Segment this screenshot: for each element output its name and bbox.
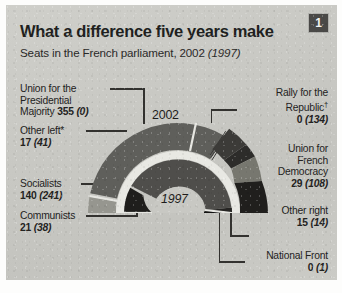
label-socialists-value-1997: (241) — [39, 190, 62, 201]
label-socialists: Socialists 140 (241) — [20, 178, 62, 201]
label-socialists-name: Socialists — [20, 178, 62, 190]
label-rpr-value-2002: 0 — [297, 114, 303, 125]
label-union-presidential-majority: Union for the Presidential Majority 355 … — [20, 83, 88, 118]
label-other-left-value-1997: (41) — [34, 137, 52, 148]
label-national-front-value-2002: 0 — [308, 262, 314, 273]
label-other-left: Other left* 17 (41) — [20, 125, 64, 148]
label-other-right: Other right 15 (14) — [282, 205, 328, 228]
chart-panel: What a difference five years make Seats … — [6, 5, 337, 280]
label-udf-value-2002: 29 — [291, 178, 302, 189]
label-national-front-name: National Front — [266, 250, 328, 262]
label-udf-line2: French — [278, 155, 328, 167]
ring-label-1997: 1997 — [161, 192, 188, 206]
label-udf-value-1997: (108) — [305, 178, 328, 189]
label-rpr-line1: Rally for the — [276, 87, 328, 99]
label-communists-value-1997: (38) — [34, 222, 52, 233]
label-other-right-value-2002: 15 — [297, 217, 308, 228]
label-upm-value-2002: 355 — [57, 106, 74, 117]
label-national-front: National Front 0 (1) — [266, 250, 328, 273]
label-upm-line2: Presidential — [20, 95, 88, 107]
label-upm-value-1997: (0) — [76, 106, 88, 117]
label-upm-line1: Union for the — [20, 83, 88, 95]
ring-label-2002: 2002 — [152, 108, 179, 122]
label-socialists-value-2002: 140 — [20, 190, 37, 201]
label-national-front-value-1997: (1) — [316, 262, 328, 273]
label-udf-line1: Union for — [278, 143, 328, 155]
label-rpr-line2: Republic — [286, 102, 324, 113]
dagger-footnote-marker: † — [324, 100, 328, 109]
figure-root: What a difference five years make Seats … — [0, 0, 342, 293]
label-communists: Communists 21 (38) — [20, 210, 75, 233]
label-other-left-value-2002: 17 — [20, 137, 31, 148]
label-other-left-name: Other left* — [20, 125, 64, 137]
label-communists-name: Communists — [20, 210, 75, 222]
label-rally-republic: Rally for the Republic† 0 (134) — [276, 87, 328, 125]
label-communists-value-2002: 21 — [20, 222, 31, 233]
label-other-right-name: Other right — [282, 205, 328, 217]
label-other-right-value-1997: (14) — [310, 217, 328, 228]
label-union-french-democracy: Union for French Democracy 29 (108) — [278, 143, 328, 189]
label-rpr-value-1997: (134) — [305, 114, 328, 125]
label-udf-line3: Democracy — [278, 166, 328, 178]
label-upm-line3: Majority — [20, 106, 54, 117]
